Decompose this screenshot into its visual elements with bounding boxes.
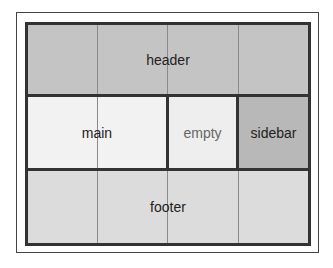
sidebar-area: sidebar bbox=[239, 97, 308, 168]
header-label: header bbox=[146, 52, 190, 68]
header-row: header bbox=[28, 25, 308, 94]
middle-row: main empty sidebar bbox=[28, 97, 308, 168]
header-area: header bbox=[28, 25, 308, 94]
empty-label: empty bbox=[183, 125, 221, 141]
grid-container: header main empty sidebar footer bbox=[25, 22, 311, 246]
footer-label: footer bbox=[150, 199, 186, 215]
empty-area: empty bbox=[169, 97, 236, 168]
main-label: main bbox=[82, 125, 112, 141]
sidebar-label: sidebar bbox=[251, 125, 297, 141]
footer-area: footer bbox=[28, 171, 308, 243]
footer-row: footer bbox=[28, 171, 308, 243]
